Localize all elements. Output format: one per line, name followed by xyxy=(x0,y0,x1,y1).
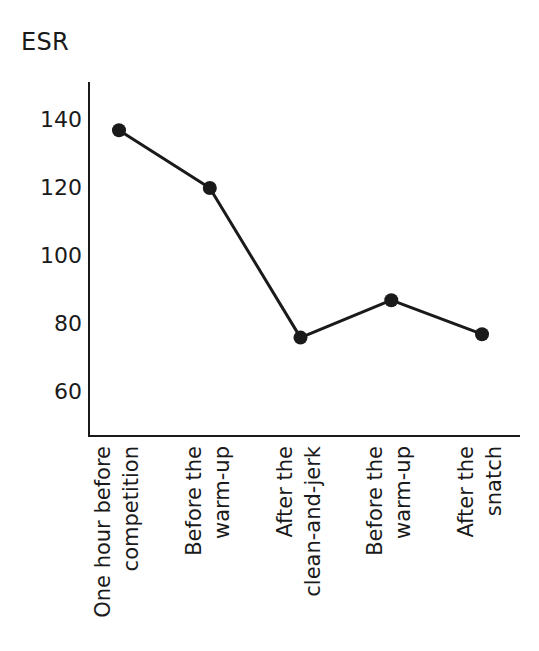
x-axis-tick-label-line: competition xyxy=(117,446,145,571)
x-axis-tick-labels: One hour beforecompetitionBefore thewarm… xyxy=(0,446,539,651)
data-point-marker xyxy=(112,123,126,137)
x-axis-tick-label-line: One hour before xyxy=(89,446,117,618)
x-axis-tick-label: Before thewarm-up xyxy=(180,446,240,646)
data-point-marker xyxy=(384,293,398,307)
x-axis-tick-label-line: After the xyxy=(271,446,299,538)
chart-figure: ESR 1401201008060 One hour beforecompeti… xyxy=(0,0,539,651)
data-point-marker xyxy=(294,331,308,345)
x-axis-tick-label-line: clean-and-jerk xyxy=(299,446,327,597)
x-axis-tick-label-line: Before the xyxy=(361,446,389,556)
x-axis-tick-label: After theclean-and-jerk xyxy=(271,446,331,646)
data-point-marker xyxy=(203,181,217,195)
x-axis-tick-label-line: Before the xyxy=(180,446,208,556)
x-axis-tick-label-line: warm-up xyxy=(208,446,236,539)
x-axis-tick-label: After thesnatch xyxy=(452,446,512,646)
x-axis-tick-label-line: warm-up xyxy=(389,446,417,539)
x-axis-tick-label: One hour beforecompetition xyxy=(89,446,149,646)
x-axis-tick-label: Before thewarm-up xyxy=(361,446,421,646)
data-point-marker xyxy=(475,327,489,341)
series-line xyxy=(119,130,482,337)
x-axis-tick-label-line: After the xyxy=(452,446,480,538)
series-markers xyxy=(112,123,489,344)
x-axis-tick-label-line: snatch xyxy=(480,446,508,516)
